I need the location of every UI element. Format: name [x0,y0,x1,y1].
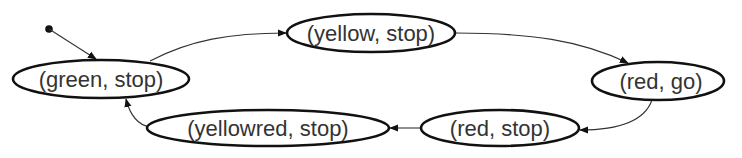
edge-initial-to-green-stop [49,29,96,59]
edge-yellow-stop-to-red-go [455,33,628,63]
state-diagram: (green, stop) (yellow, stop) (red, go) (… [0,0,742,158]
node-label: (red, stop) [450,116,550,141]
node-label: (red, go) [619,69,702,94]
node-green-stop: (green, stop) [13,60,189,98]
edge-green-stop-to-yellow-stop [150,33,286,61]
node-yellowred-stop: (yellowred, stop) [147,110,389,146]
diagram-svg: (green, stop) (yellow, stop) (red, go) (… [0,0,742,158]
node-yellow-stop: (yellow, stop) [287,14,455,52]
edge-red-go-to-red-stop [580,100,652,130]
node-label: (green, stop) [39,67,164,92]
node-red-stop: (red, stop) [421,110,579,146]
edge-yellowred-stop-to-green-stop [126,99,150,127]
node-label: (yellowred, stop) [187,116,348,141]
node-red-go: (red, go) [592,62,724,100]
node-label: (yellow, stop) [307,21,435,46]
